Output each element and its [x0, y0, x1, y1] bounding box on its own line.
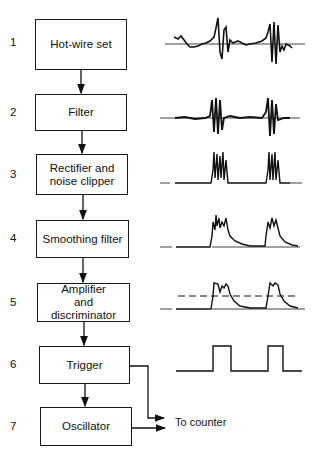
arrow-trigger-to-counter: [130, 366, 164, 418]
waveform-2: [160, 98, 300, 136]
connectors-and-waveforms: [0, 0, 323, 467]
waveform-6: [176, 346, 302, 371]
waveform-5: [160, 283, 305, 309]
waveform-1: [165, 18, 305, 64]
waveform-3: [160, 152, 302, 183]
waveform-4: [160, 215, 300, 247]
